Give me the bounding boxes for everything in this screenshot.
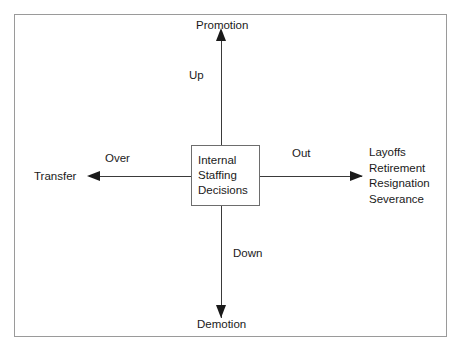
center-node-line-2: Staffing bbox=[198, 168, 259, 183]
outcome-retirement: Retirement bbox=[369, 161, 430, 177]
arrow-left-icon bbox=[87, 171, 100, 181]
center-node-line-3: Decisions bbox=[198, 183, 259, 198]
endpoint-label-out-outcomes: Layoffs Retirement Resignation Severance bbox=[369, 145, 430, 207]
center-node-line-1: Internal bbox=[198, 153, 259, 168]
diagram-canvas: Internal Staffing Decisions Promotion De… bbox=[0, 0, 464, 351]
arrow-up-icon bbox=[216, 28, 226, 41]
direction-label-up: Up bbox=[189, 69, 204, 82]
direction-label-down: Down bbox=[233, 247, 262, 260]
center-node-internal-staffing-decisions: Internal Staffing Decisions bbox=[191, 145, 260, 206]
endpoint-label-demotion: Demotion bbox=[197, 318, 246, 331]
outcome-severance: Severance bbox=[369, 192, 430, 208]
endpoint-label-transfer: Transfer bbox=[34, 170, 76, 183]
direction-label-over: Over bbox=[105, 152, 130, 165]
arrow-right-icon bbox=[350, 171, 363, 181]
outcome-layoffs: Layoffs bbox=[369, 145, 430, 161]
outcome-resignation: Resignation bbox=[369, 176, 430, 192]
arrow-down-icon bbox=[216, 305, 226, 318]
direction-label-out: Out bbox=[292, 147, 311, 160]
